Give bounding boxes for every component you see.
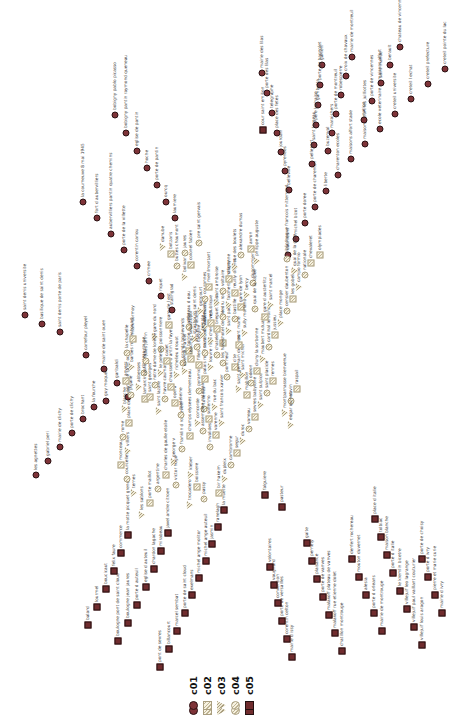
c05-marker-icon (196, 575, 203, 582)
c04-marker-icon (207, 444, 214, 451)
node-label: billancourt (167, 621, 171, 644)
c02-marker-icon (294, 386, 301, 393)
node-label: tolbiac (379, 518, 383, 532)
c03-marker-icon (236, 385, 243, 393)
node-label: mairie de saint ouen (102, 320, 106, 364)
legend-label-c01: c01 (188, 676, 199, 695)
c01-marker-icon (343, 73, 350, 80)
node-label: cardinal lemoine (267, 306, 271, 342)
c01-marker-icon (91, 404, 98, 411)
node-label: bolivar (183, 257, 187, 272)
node-label: fort d aubervilliers (95, 173, 99, 213)
node-label: trocadero (188, 479, 192, 500)
node-label: porte de saint cloud (183, 565, 187, 608)
c05-marker-icon (397, 588, 404, 595)
c05-marker-icon (419, 556, 426, 563)
node-label: place des fetes (275, 95, 279, 128)
c03-marker-icon (244, 291, 251, 299)
c01-marker-icon (309, 161, 316, 168)
node-label: chardon lagache (152, 528, 156, 564)
node-label: boulogne pont de saint cloud (116, 573, 120, 636)
node-label: michel ange molitor (197, 530, 201, 573)
node-label: denfert rochereau (350, 515, 354, 554)
node-label: pelleport (310, 140, 314, 159)
c02-marker-icon (163, 472, 170, 479)
c05-marker-icon (349, 556, 356, 563)
node-label: argentine (156, 463, 160, 484)
c01-marker-icon (408, 96, 415, 103)
node-label: notre dame de lorette (153, 333, 157, 380)
c05-marker-icon (271, 582, 278, 589)
c01-marker-icon (323, 188, 330, 195)
c04-marker-icon (174, 263, 181, 270)
c01-marker-icon (325, 148, 332, 155)
c02-marker-icon (194, 484, 201, 491)
legend-label-c03: c03 (216, 676, 227, 695)
c03-marker-icon (288, 421, 295, 429)
c02-marker-icon (187, 433, 194, 440)
c05-marker-icon (372, 516, 379, 523)
node-label: richelieu drouot (175, 336, 179, 370)
c01-marker-icon (80, 416, 87, 423)
c01-marker-icon (134, 148, 141, 155)
node-label: les agnettes (34, 444, 38, 470)
c03-marker-icon (226, 327, 233, 335)
node-label: campo formio (297, 252, 301, 282)
c05-marker-icon (425, 574, 432, 581)
c02-marker-icon (290, 296, 297, 303)
node-label: crimee (147, 261, 151, 276)
c01-marker-icon (163, 199, 170, 206)
c05-marker-icon (165, 530, 172, 537)
node-label: saint francois xavier (220, 374, 224, 418)
c03-marker-icon (240, 437, 247, 445)
c05-marker-icon (284, 636, 291, 643)
c05-marker-icon (262, 492, 269, 499)
c02-marker-icon (272, 332, 279, 339)
node-label: cour saint emilion (261, 87, 265, 125)
node-label: aubervilliers pantin quatre chemins (109, 153, 113, 229)
c01-marker-icon (338, 92, 345, 99)
node-label: breguet sabin (215, 294, 219, 324)
node-label: temple (201, 315, 205, 330)
node-label: maison blanche (385, 516, 389, 550)
c02-marker-icon (147, 394, 154, 401)
node-label: olympiades (318, 225, 322, 250)
c01-marker-icon (123, 130, 130, 137)
node-label: villejuif paul vaillant couturier (412, 558, 416, 622)
c03-marker-icon (182, 273, 189, 281)
node-label: bobigny pantin raymond queneau (124, 55, 128, 128)
c04-marker-icon (220, 314, 227, 321)
node-label: solferino (207, 395, 211, 414)
c02-marker-icon (232, 290, 239, 297)
node-label: buzenval (326, 127, 330, 146)
c05-marker-icon (166, 646, 173, 653)
node-label: champs elysees clemenceau (188, 369, 192, 431)
c02-marker-icon (147, 500, 154, 507)
node-label: jules joffrin (144, 332, 148, 356)
node-label: mouton duvernet (357, 535, 361, 572)
node-label: le peletier (159, 346, 163, 368)
node-label: charenton ecoles (336, 133, 340, 170)
c02-marker-icon (123, 378, 130, 385)
legend-item-c02: c02 (200, 676, 214, 715)
node-label: marcel sembat (175, 594, 179, 626)
legend-marker-c03-triangle-icon (216, 700, 226, 715)
node-label: danube (161, 226, 165, 242)
c01-marker-icon (144, 165, 151, 172)
c04-marker-icon (173, 482, 180, 489)
node-label: gare du nord (153, 304, 157, 332)
node-label: garibaldi (115, 359, 119, 378)
node-label: pont marie (237, 316, 241, 340)
node-label: commerce (119, 525, 123, 548)
node-label: chatillon montrouge (340, 603, 344, 646)
node-label: porte d orleans (372, 575, 376, 608)
c01-marker-icon (69, 430, 76, 437)
c05-marker-icon (115, 638, 122, 645)
c04-marker-icon (220, 288, 227, 295)
c02-marker-icon (188, 262, 195, 269)
c04-marker-icon (264, 390, 271, 397)
c01-marker-icon (335, 172, 342, 179)
c02-marker-icon (164, 358, 171, 365)
node-label: creteil l echat (409, 65, 413, 94)
c01-marker-icon (57, 444, 64, 451)
